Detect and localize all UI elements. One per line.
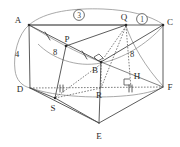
vertex-label-q: Q [121,12,128,22]
vertex-label-a: A [15,15,22,25]
circled-annotations: 3 1 [74,10,148,25]
vertex-dot-c [162,24,165,27]
circled-three-text: 3 [77,11,81,20]
arc-inner-front [38,44,101,64]
edge-pq [66,25,126,46]
geometry-canvas: 3 1 4 8 8 A C D F E B P Q [0,0,180,147]
vertex-label-s: S [50,103,55,113]
vertex-label-f: F [167,82,172,92]
tick-pb-single [82,51,87,59]
hidden-edge-df [30,87,163,88]
vertex-label-d: D [17,84,24,94]
tick-ap-single [45,32,50,40]
vertex-label-h: H [134,71,141,81]
edge-de [30,88,99,123]
vertex-dot-s [54,97,56,99]
right-angle-marks [94,54,131,85]
vertex-label-e: E [96,131,102,141]
vertex-dot-p [65,45,68,48]
vertex-label-r: R [96,90,102,100]
edge-bf [101,62,163,87]
vertex-dot-a [28,24,31,27]
measure-length-ad: 4 [15,49,20,59]
vertex-dot-q [125,24,128,27]
vertex-label-b: B [92,65,98,75]
measure-length-qc: 8 [130,49,134,59]
vertex-label-p: P [64,34,69,44]
vertex-dot-b [100,61,103,64]
vertex-labels: A C D F E B P Q R S H [15,12,173,141]
edge-ef [99,87,163,123]
measure-length-ap: 8 [53,47,57,57]
edge-ad [29,25,30,88]
geometry-figure: 3 1 4 8 8 A C D F E B P Q [0,0,180,147]
edge-se [55,98,99,123]
circled-one-text: 1 [140,15,144,24]
vertex-label-c: C [167,17,173,27]
